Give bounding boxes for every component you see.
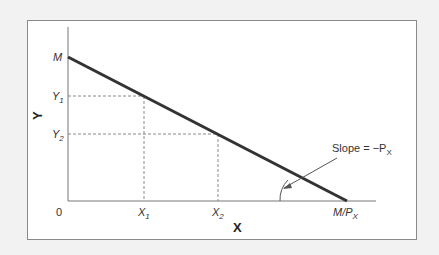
- budget-line-diagram: M Y1 Y2 Y 0 X1 X2 M/PX X Slope = −PX: [0, 0, 439, 255]
- x-intercept-label: M/PX: [333, 206, 359, 221]
- x2-label: X2: [211, 206, 224, 221]
- x1-label: X1: [137, 206, 150, 221]
- y1-label: Y1: [52, 90, 64, 105]
- x-axis-title: X: [233, 220, 242, 235]
- y-axis-title: Y: [30, 111, 45, 120]
- y-intercept-label: M: [53, 51, 63, 63]
- budget-line: [68, 57, 347, 201]
- y2-label: Y2: [52, 128, 64, 143]
- origin-label: 0: [56, 206, 62, 218]
- slope-annotation: Slope = −PX: [332, 142, 392, 157]
- slope-arc: [280, 180, 288, 201]
